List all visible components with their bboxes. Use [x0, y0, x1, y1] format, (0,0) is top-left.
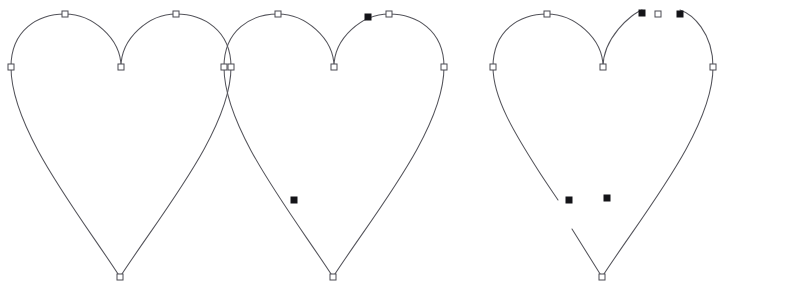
- vector-drawing-canvas[interactable]: [0, 0, 810, 288]
- vector-canvas-root: [0, 0, 810, 288]
- path-node-hollow-node-bottom[interactable]: [599, 274, 605, 280]
- path-node-hollow-node-cleft[interactable]: [118, 64, 124, 70]
- path-node-filled-cut-marker-upper-right[interactable]: [365, 14, 371, 20]
- path-node-filled-cut-marker-lower-left[interactable]: [291, 197, 297, 203]
- path-node-filled-open-endpoint-upper-inner[interactable]: [639, 10, 645, 16]
- path-node-filled-open-endpoint-lower-right[interactable]: [604, 195, 610, 201]
- path-node-hollow-node-bottom[interactable]: [330, 274, 336, 280]
- path-node-hollow-node-top-left[interactable]: [62, 11, 68, 17]
- path-node-hollow-node-top-left[interactable]: [544, 11, 550, 17]
- path-node-hollow-node-cleft[interactable]: [600, 64, 606, 70]
- path-node-hollow-node-bottom[interactable]: [117, 274, 123, 280]
- path-node-hollow-node-left[interactable]: [490, 64, 496, 70]
- path-node-filled-open-endpoint-lower-left[interactable]: [566, 197, 572, 203]
- path-node-hollow-node-right[interactable]: [441, 64, 447, 70]
- path-node-hollow-node-right[interactable]: [710, 64, 716, 70]
- path-node-hollow-node-left[interactable]: [8, 64, 14, 70]
- path-node-hollow-node-top-right[interactable]: [386, 11, 392, 17]
- path-node-hollow-node-cleft[interactable]: [331, 64, 337, 70]
- path-node-hollow-node-top-right[interactable]: [655, 11, 661, 17]
- path-node-filled-open-endpoint-upper-outer[interactable]: [677, 11, 683, 17]
- path-node-hollow-node-right[interactable]: [228, 64, 234, 70]
- path-node-hollow-node-top-right[interactable]: [173, 11, 179, 17]
- path-node-hollow-node-top-left[interactable]: [275, 11, 281, 17]
- path-node-hollow-node-left[interactable]: [221, 64, 227, 70]
